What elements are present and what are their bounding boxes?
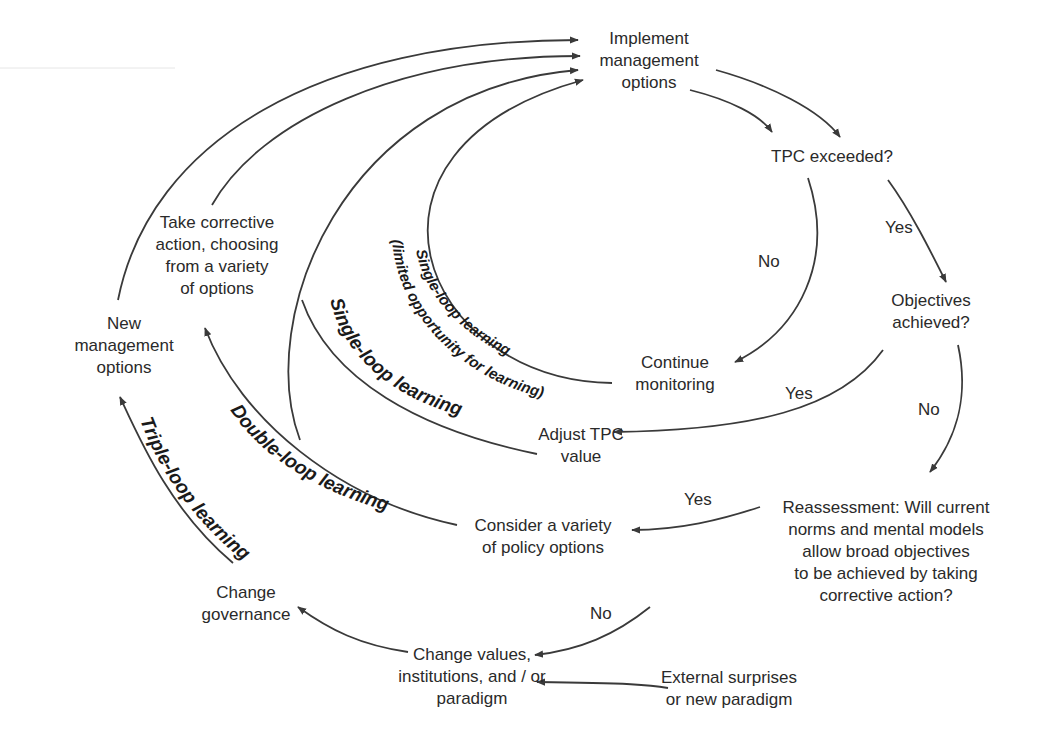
node-line: Consider a variety [474, 515, 611, 537]
node-line: corrective action? [783, 585, 990, 607]
arrow-change-values-to-governance [298, 607, 408, 652]
node-line: allow broad objectives [783, 541, 990, 563]
edge-label-reassessment-yes: Yes [684, 490, 712, 510]
node-line: paradigm [398, 688, 545, 710]
node-adjust-tpc-value: Adjust TPC value [538, 424, 624, 468]
node-external-surprises: External surprises or new paradigm [661, 667, 797, 711]
arrow-implement-to-tpc-outer [716, 70, 840, 137]
arrow-implement-to-tpc-inner [690, 90, 772, 132]
edge-label-tpc-yes: Yes [885, 218, 913, 238]
node-line: action, choosing [156, 234, 279, 256]
loop-label-single-limited-1: Single-loop learning [413, 248, 514, 359]
node-line: Implement [599, 28, 698, 50]
node-line: management [599, 50, 698, 72]
node-continue-monitoring: Continue monitoring [635, 352, 714, 396]
edge-label-reassessment-no: No [590, 604, 612, 624]
adaptive-management-learning-loops-diagram: Single-loop learning (limited opportunit… [0, 0, 1042, 738]
node-line: Take corrective [156, 212, 279, 234]
node-change-values: Change values, institutions, and / or pa… [398, 644, 545, 710]
node-implement-management-options: Implement management options [599, 28, 698, 94]
node-line: from a variety [156, 256, 279, 278]
node-line: New [74, 313, 173, 335]
node-line: Objectives [891, 290, 970, 312]
arrow-external-to-change-values [537, 682, 668, 688]
edge-label-objectives-no: No [918, 400, 940, 420]
node-line: Change [202, 582, 291, 604]
loop-label-triple: Triple-loop learning [136, 414, 255, 564]
node-line: management [74, 335, 173, 357]
node-line: or new paradigm [661, 689, 797, 711]
node-line: governance [202, 604, 291, 626]
node-line: Reassessment: Will current [783, 497, 990, 519]
node-change-governance: Change governance [202, 582, 291, 626]
node-line: to be achieved by taking [783, 563, 990, 585]
node-line: value [538, 446, 624, 468]
node-line: norms and mental models [783, 519, 990, 541]
node-tpc-exceeded: TPC exceeded? [771, 146, 893, 168]
node-line: External surprises [661, 667, 797, 689]
node-line: monitoring [635, 374, 714, 396]
node-line: Continue [635, 352, 714, 374]
node-line: of options [156, 278, 279, 300]
node-consider-policy-options: Consider a variety of policy options [474, 515, 611, 559]
node-objectives-achieved: Objectives achieved? [891, 290, 970, 334]
loop-label-single: Single-loop learning [326, 295, 465, 419]
arrow-reassessment-yes-to-consider [632, 507, 760, 530]
edge-label-objectives-yes: Yes [785, 384, 813, 404]
node-new-management-options: New management options [74, 313, 173, 379]
node-line: options [599, 72, 698, 94]
node-line: institutions, and / or [398, 666, 545, 688]
node-line: Change values, [398, 644, 545, 666]
node-line: TPC exceeded? [771, 146, 893, 168]
node-line: of policy options [474, 537, 611, 559]
node-line: Adjust TPC [538, 424, 624, 446]
node-take-corrective-action: Take corrective action, choosing from a … [156, 212, 279, 300]
edge-label-tpc-no: No [758, 252, 780, 272]
node-reassessment: Reassessment: Will current norms and men… [783, 497, 990, 607]
node-line: achieved? [891, 312, 970, 334]
node-line: options [74, 357, 173, 379]
